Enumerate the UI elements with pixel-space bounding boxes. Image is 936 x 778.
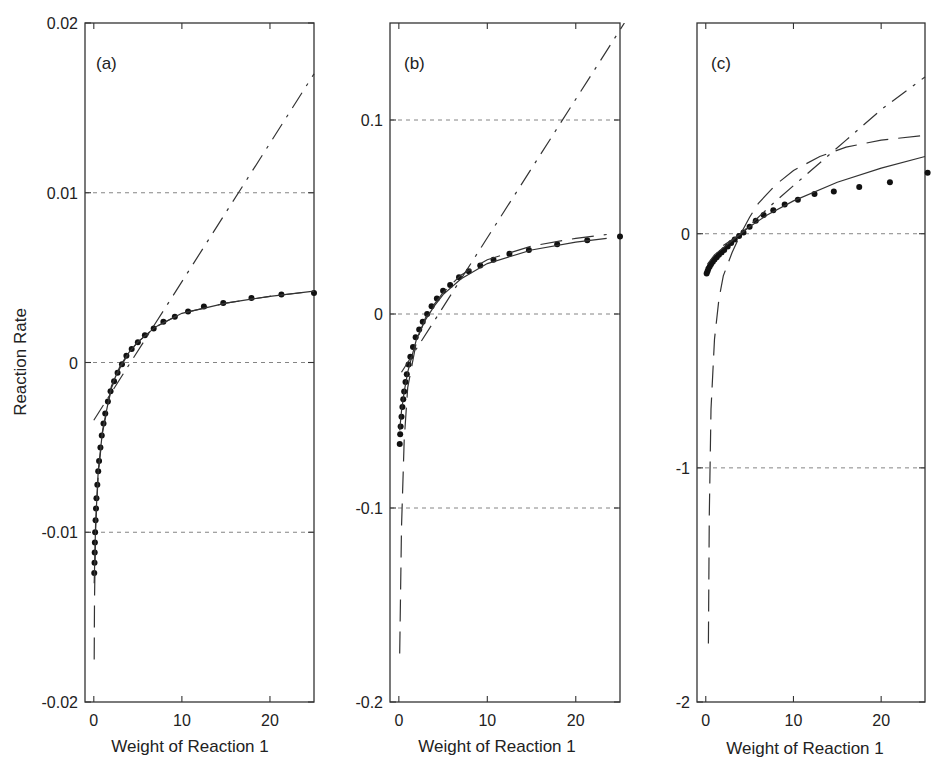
data-point: [925, 170, 931, 176]
series-dashdot-line: [402, 23, 625, 372]
data-point: [248, 295, 254, 301]
figure-three-panels: 010200.020.010-0.01-0.02 010200.10-0.1-0…: [0, 0, 936, 778]
data-point: [397, 441, 403, 447]
series-dashed-line: [400, 235, 607, 654]
y-tick-label: 0.02: [47, 15, 78, 32]
y-tick-label: 0: [681, 226, 690, 243]
data-point: [617, 233, 623, 239]
y-tick-label: -0.02: [42, 694, 79, 711]
plot-area: [91, 74, 317, 660]
x-tick-label: 10: [173, 712, 191, 729]
x-tick-label: 10: [478, 712, 496, 729]
series-solid-line: [400, 238, 607, 430]
y-tick-label: -0.01: [42, 524, 79, 541]
y-tick-label: -0.2: [355, 694, 383, 711]
x-axis-label-a: Weight of Reaction 1: [111, 737, 269, 756]
panel-label-b: (b): [404, 54, 425, 73]
axes-frame: [390, 23, 620, 702]
x-tick-label: 20: [872, 712, 890, 729]
data-point: [887, 179, 893, 185]
x-tick-label: 0: [394, 712, 403, 729]
y-tick-label: -1: [676, 460, 690, 477]
y-tick-label: -2: [676, 694, 690, 711]
y-tick-label: 0: [374, 306, 383, 323]
data-point: [831, 189, 837, 195]
panel-c: 010200-1-2: [676, 23, 931, 729]
series-dashed-line: [708, 135, 925, 643]
x-axis-label-b: Weight of Reaction 1: [418, 737, 576, 756]
x-tick-label: 20: [261, 712, 279, 729]
y-axis-label: Reaction Rate: [11, 308, 30, 416]
panel-a: 010200.020.010-0.01-0.02: [42, 15, 317, 729]
data-point: [397, 431, 403, 437]
axes-frame: [697, 23, 925, 702]
plot-area: [704, 77, 931, 644]
x-tick-label: 0: [701, 712, 710, 729]
series-solid-line: [708, 157, 926, 265]
data-point: [311, 290, 317, 296]
panel-label-a: (a): [96, 54, 117, 73]
y-tick-label: 0.1: [361, 112, 383, 129]
data-point: [856, 184, 862, 190]
x-tick-label: 20: [567, 712, 585, 729]
panel-label-c: (c): [711, 54, 731, 73]
series-dashdot-line: [94, 74, 314, 420]
panel-b: 010200.10-0.1-0.2: [355, 23, 624, 729]
plot-area: [397, 23, 625, 654]
y-tick-label: -0.1: [355, 500, 383, 517]
y-tick-label: 0: [69, 355, 78, 372]
y-tick-label: 0.01: [47, 185, 78, 202]
x-axis-label-c: Weight of Reaction 1: [726, 739, 884, 758]
series-dashed-line: [94, 291, 314, 659]
series-solid-line: [94, 291, 314, 583]
x-tick-label: 0: [89, 712, 98, 729]
x-tick-label: 10: [785, 712, 803, 729]
